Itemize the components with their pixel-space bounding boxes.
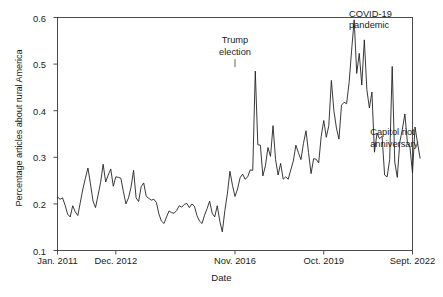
x-axis-tick-label: Sept. 2022: [390, 255, 435, 266]
annotation-capitol-riot-anniversary-line2: anniversary: [370, 139, 418, 151]
x-axis-tick-label: Dec. 2012: [94, 255, 137, 266]
annotation-trump-election-line2: election: [219, 47, 251, 59]
annotation-capitol-riot-anniversary: Capitol riot anniversary: [370, 127, 418, 150]
annotation-covid-19-pandemic: COVID-19 pandemic: [349, 9, 392, 32]
x-axis-tick-label: Jan. 2011: [37, 255, 77, 266]
annotation-trump-election-line1: Trump: [219, 35, 251, 47]
x-axis-title: Date: [0, 272, 443, 283]
figure-chart-rural-america-articles: Percentage articles about rural America …: [0, 0, 443, 297]
x-axis-title-text: Date: [211, 272, 231, 283]
annotation-capitol-riot-anniversary-line1: Capitol riot: [370, 127, 418, 139]
x-axis-tick-label: Nov. 2016: [214, 255, 256, 266]
annotation-covid-19-pandemic-line1: COVID-19: [349, 9, 392, 21]
annotation-trump-election: Trump election: [219, 35, 251, 58]
annotation-covid-19-pandemic-line2: pandemic: [349, 20, 392, 32]
x-axis-tick-label: Oct. 2019: [303, 255, 344, 266]
